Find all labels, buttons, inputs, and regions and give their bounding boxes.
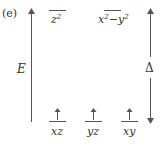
arrow-down-icon bbox=[147, 118, 154, 124]
splitting-label: Δ bbox=[145, 62, 154, 74]
label-yz: yz bbox=[87, 126, 99, 137]
label-xy: xy bbox=[123, 126, 135, 137]
arrow-up-icon bbox=[147, 8, 154, 14]
splitting-arrow-line-lower bbox=[150, 78, 151, 120]
label-z2: z2 bbox=[51, 14, 61, 25]
level-x2-y2 bbox=[104, 10, 121, 11]
energy-axis-label: E bbox=[17, 63, 26, 75]
level-xy bbox=[121, 121, 138, 122]
splitting-arrow-line bbox=[150, 12, 151, 57]
spin-up-arrow-icon bbox=[90, 108, 97, 120]
energy-axis-line bbox=[31, 12, 32, 122]
level-xz bbox=[49, 121, 66, 122]
level-yz bbox=[85, 121, 102, 122]
panel-label: (e) bbox=[2, 8, 17, 19]
spin-up-arrow-icon bbox=[126, 108, 133, 120]
label-x2-y2: x2−y2 bbox=[98, 14, 129, 25]
level-z2 bbox=[49, 10, 66, 11]
spin-up-arrow-icon bbox=[54, 108, 61, 120]
arrow-up-icon bbox=[28, 8, 35, 14]
label-xz: xz bbox=[51, 126, 63, 137]
